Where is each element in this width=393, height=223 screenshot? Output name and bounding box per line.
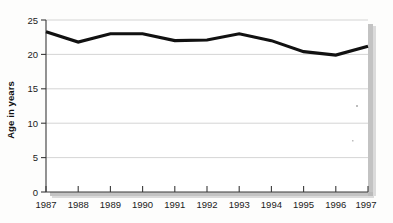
x-tick-labels: 1987 1988 1989 1990 1991 1992 1993 1994 … — [35, 199, 376, 210]
scan-speck-2 — [352, 140, 354, 142]
y-tick-label-5: 5 — [33, 152, 38, 163]
line-chart: 25 20 15 10 5 0 Age in years 1987 1988 — [0, 0, 393, 223]
scan-speck-1 — [356, 105, 358, 107]
x-tick-label-1993: 1993 — [229, 199, 250, 210]
x-tick-label-1996: 1996 — [325, 199, 346, 210]
x-tick-label-1990: 1990 — [132, 199, 153, 210]
y-tick-marks — [41, 20, 46, 192]
plot-background — [46, 20, 368, 192]
y-tick-label-0: 0 — [33, 187, 38, 198]
x-tick-label-1989: 1989 — [100, 199, 121, 210]
plot-shadow-bottom-soft — [52, 196, 374, 198]
plot-shadow-right — [368, 24, 373, 196]
y-tick-label-25: 25 — [27, 15, 38, 26]
y-tick-label-10: 10 — [27, 118, 38, 129]
x-tick-label-1987: 1987 — [35, 199, 56, 210]
x-tick-label-1995: 1995 — [293, 199, 314, 210]
plot-shadow-bottom — [50, 192, 373, 196]
y-tick-label-20: 20 — [27, 49, 38, 60]
x-tick-label-1997: 1997 — [355, 199, 376, 210]
y-axis-title: Age in years — [5, 81, 16, 139]
x-tick-label-1991: 1991 — [164, 199, 185, 210]
x-tick-label-1994: 1994 — [261, 199, 282, 210]
x-tick-label-1992: 1992 — [196, 199, 217, 210]
chart-figure: 25 20 15 10 5 0 Age in years 1987 1988 — [0, 0, 393, 223]
x-tick-label-1988: 1988 — [68, 199, 89, 210]
y-tick-label-15: 15 — [27, 83, 38, 94]
plot-shadow-right-soft — [373, 26, 376, 196]
y-tick-labels: 25 20 15 10 5 0 — [27, 15, 38, 198]
